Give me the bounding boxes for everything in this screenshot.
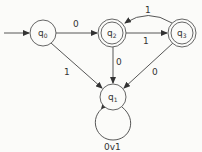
edge-q3-q1 (124, 43, 173, 88)
edge-label-q2-q1: 0 (116, 57, 122, 67)
edge-q3-q2 (125, 16, 172, 24)
edge-q1-selfloop (95, 107, 130, 140)
diagram-svg: 0 1 1 1 0 0 0v1 q0 q2 q3 q1 (0, 0, 202, 152)
edge-label-q0-q1: 1 (64, 67, 70, 77)
state-q2: q2 (98, 19, 126, 47)
state-q0: q0 (30, 20, 56, 46)
state-q3: q3 (168, 19, 196, 47)
edge-label-q0-q2: 0 (73, 19, 79, 29)
edge-label-q3-q2: 1 (145, 5, 151, 15)
edge-label-q3-q1: 0 (152, 67, 158, 77)
edge-label-q2-q3: 1 (143, 36, 149, 46)
edge-q0-q1 (51, 43, 102, 88)
edge-label-q1-q1: 0v1 (104, 142, 121, 152)
state-q1: q1 (100, 84, 126, 110)
dfa-diagram: 0 1 1 1 0 0 0v1 q0 q2 q3 q1 (0, 0, 202, 152)
